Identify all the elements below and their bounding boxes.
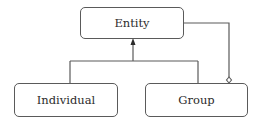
inheritance-arrowhead-icon	[131, 38, 136, 45]
group-label: Group	[178, 93, 214, 107]
entity-label: Entity	[114, 16, 149, 30]
aggregation-line	[183, 23, 229, 77]
individual-label: Individual	[37, 93, 95, 107]
individual-class-box[interactable]: Individual	[14, 83, 118, 117]
group-class-box[interactable]: Group	[145, 83, 248, 117]
uml-diagram: Entity Individual Group	[0, 0, 258, 123]
entity-class-box[interactable]: Entity	[80, 7, 184, 39]
